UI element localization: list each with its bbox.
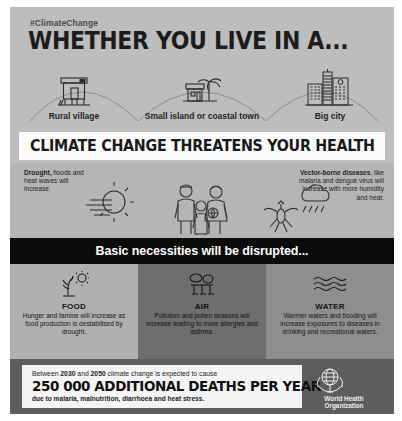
necessity-text: Pollution and pollen seasons will increa… xyxy=(144,312,260,337)
statistic-intro: Between 2030 and 2050 climate change is … xyxy=(32,370,294,378)
who-logo: World HealthOrganization xyxy=(312,364,376,410)
statistic-headline: 250 000 ADDITIONAL DEATHS PER YEAR xyxy=(32,378,276,395)
necessities-section: FOOD Hunger and famine will increase as … xyxy=(10,264,394,359)
withered-plant-sun-icon xyxy=(16,270,132,300)
statistic-year-end: 2050 xyxy=(91,370,106,377)
impacts-section: Drought, floods and heat waves will incr… xyxy=(10,163,394,238)
necessity-food: FOOD Hunger and famine will increase as … xyxy=(10,264,138,359)
infographic-poster: #ClimateChange WHETHER YOU LIVE IN A... xyxy=(0,0,402,421)
threat-banner-text: CLIMATE CHANGE THREATENS YOUR HEALTH xyxy=(30,137,375,155)
palm-house-icon xyxy=(179,68,225,110)
mosquito-raincloud-icon xyxy=(264,185,329,232)
statistic-year-start: 2030 xyxy=(60,370,75,377)
statistic-intro-b: and xyxy=(75,370,90,377)
stilt-house-icon xyxy=(52,68,96,110)
scenario-label: Big city xyxy=(315,112,346,122)
necessity-title: FOOD xyxy=(16,302,132,311)
skyscrapers-icon xyxy=(304,68,356,110)
scenario-rural-village: Rural village xyxy=(10,59,138,123)
smog-factory-icon xyxy=(144,270,260,300)
statistic-causes: due to malaria, malnutrition, diarrhoea … xyxy=(32,395,294,403)
impacts-illustration xyxy=(10,174,394,238)
threat-banner: CLIMATE CHANGE THREATENS YOUR HEALTH xyxy=(19,132,385,160)
statistic-box: Between 2030 and 2050 climate change is … xyxy=(22,365,302,408)
disruption-bar: Basic necessities will be disrupted... xyxy=(10,238,394,264)
scenario-list: Rural village xyxy=(10,59,394,123)
necessity-water: WATER Warmer waters and flooding will in… xyxy=(266,264,394,359)
header-section: #ClimateChange WHETHER YOU LIVE IN A... xyxy=(10,7,394,130)
disruption-bar-text: Basic necessities will be disrupted... xyxy=(96,244,309,258)
necessity-title: WATER xyxy=(272,302,388,311)
page-title: WHETHER YOU LIVE IN A... xyxy=(28,27,348,54)
scenario-small-island: Small island or coastal town xyxy=(138,59,266,123)
necessity-air: AIR Pollution and pollen seasons will in… xyxy=(138,264,266,359)
who-logo-name: World HealthOrganization xyxy=(312,395,376,410)
necessity-title: AIR xyxy=(144,302,260,311)
necessity-text: Warmer waters and flooding will increase… xyxy=(272,312,388,337)
footer-section: Between 2030 and 2050 climate change is … xyxy=(10,359,394,414)
statistic-intro-a: Between xyxy=(32,370,60,377)
scenario-label: Small island or coastal town xyxy=(145,112,259,122)
necessity-text: Hunger and famine will increase as food … xyxy=(16,312,132,337)
waves-icon xyxy=(272,270,388,300)
family-icon xyxy=(175,185,227,235)
sun-heatwave-icon xyxy=(86,182,134,222)
banner-section: CLIMATE CHANGE THREATENS YOUR HEALTH xyxy=(10,130,394,163)
scenario-label: Rural village xyxy=(49,112,100,122)
who-emblem-icon xyxy=(312,364,348,394)
scenario-big-city: Big city xyxy=(266,59,394,123)
statistic-intro-c: climate change is expected to cause xyxy=(106,370,217,377)
poster-sheet: #ClimateChange WHETHER YOU LIVE IN A... xyxy=(10,7,394,414)
